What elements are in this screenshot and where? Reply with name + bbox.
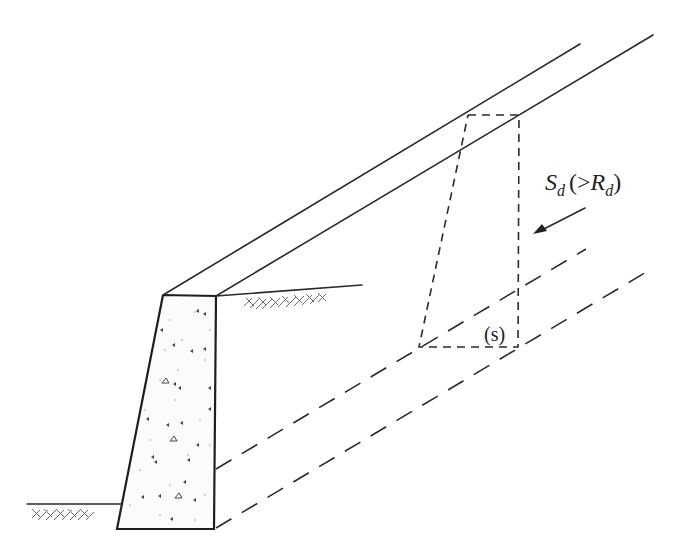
- slope-surface: [163, 35, 653, 296]
- failure-wedge: [419, 115, 519, 347]
- force-label: Sd(>Rd): [545, 169, 621, 199]
- concrete-wall: [117, 295, 216, 529]
- soil-hatch-left: [32, 509, 94, 520]
- heel-ground-surface: [216, 285, 362, 309]
- toe-ground-surface: [27, 504, 121, 520]
- retaining-wall-diagram: Sd(>Rd) (s): [0, 0, 681, 560]
- driving-force-arrow: [533, 208, 585, 234]
- wedge-label: (s): [484, 323, 505, 346]
- soil-hatch-right: [244, 293, 326, 309]
